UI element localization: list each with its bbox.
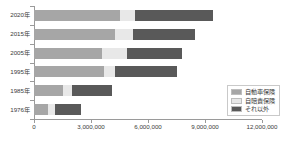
x-axis-tick-label: 12,000,000: [247, 124, 278, 130]
legend-item: 自動車保険: [231, 89, 275, 95]
legend-swatch-icon: [231, 106, 242, 112]
y-axis-category-label: 2015年: [10, 31, 30, 37]
y-axis-category-label: 1985年: [10, 88, 30, 94]
bar-segment: [34, 10, 120, 21]
bar-segment: [133, 29, 196, 40]
bar-row: [34, 10, 262, 21]
legend-label: 自賠責保険: [245, 98, 275, 104]
bar-segment: [34, 104, 48, 115]
bar-segment: [127, 48, 182, 59]
bar-segment: [34, 48, 102, 59]
x-axis-tick-label: 6,000,000: [134, 124, 162, 130]
bar-segment: [55, 104, 82, 115]
bar-segment: [135, 10, 213, 21]
legend-swatch-icon: [231, 98, 242, 104]
bar-segment: [48, 104, 55, 115]
bar-segment: [63, 85, 73, 96]
y-axis-category-label: 1995年: [10, 69, 30, 75]
y-axis-category-label: 2005年: [10, 50, 30, 56]
bar-segment: [34, 29, 115, 40]
bar-segment: [115, 29, 133, 40]
legend-swatch-icon: [231, 89, 242, 95]
bar-segment: [34, 85, 63, 96]
chart-legend: 自動車保険自賠責保険それ以外: [227, 85, 280, 116]
legend-label: 自動車保険: [245, 89, 275, 95]
bar-segment: [72, 85, 112, 96]
legend-item: それ以外: [231, 106, 275, 112]
bar-segment: [120, 10, 135, 21]
legend-label: それ以外: [245, 106, 269, 112]
legend-item: 自賠責保険: [231, 98, 275, 104]
x-axis-tick-label: 3,000,000: [77, 124, 105, 130]
bar-row: [34, 66, 262, 77]
bar-segment: [102, 48, 127, 59]
bar-row: [34, 29, 262, 40]
x-axis-tick-label: 9,000,000: [191, 124, 219, 130]
bar-segment: [34, 66, 104, 77]
y-axis-category-label: 1976年: [10, 106, 30, 112]
bar-row: [34, 48, 262, 59]
y-axis-category-label: 2020年: [10, 12, 30, 18]
x-axis-tick-label: 0: [32, 124, 35, 130]
bar-segment: [104, 66, 114, 77]
bar-segment: [115, 66, 177, 77]
bar-chart: 2020年2015年2005年1995年1985年1976年 03,000,00…: [0, 0, 284, 141]
